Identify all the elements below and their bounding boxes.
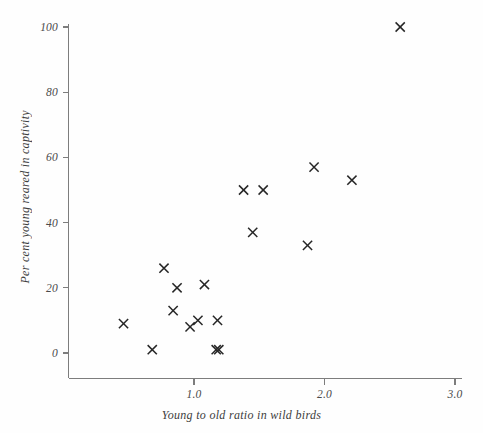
y-tick-label: 20 [10, 282, 58, 294]
data-point [172, 283, 181, 292]
data-point [159, 264, 168, 273]
plot-canvas [0, 0, 483, 433]
data-point [169, 306, 178, 315]
data-point-markers [119, 22, 405, 354]
data-point [119, 319, 128, 328]
x-axis-ticks [194, 379, 455, 385]
data-point [213, 316, 222, 325]
x-tick-label: 3.0 [448, 388, 463, 400]
data-point [185, 322, 194, 331]
x-tick-label: 1.0 [187, 388, 202, 400]
x-tick-label: 2.0 [317, 388, 332, 400]
data-point [309, 163, 318, 172]
y-tick-label: 80 [10, 86, 58, 98]
data-point [396, 22, 405, 31]
y-axis-title: Per cent young reared in captivity [18, 110, 36, 284]
y-tick-label: 0 [10, 347, 58, 359]
x-axis-title: Young to old ratio in wild birds [0, 408, 483, 423]
data-point [303, 241, 312, 250]
plot-area: 020406080100 1.02.03.0 [0, 0, 483, 433]
data-point [259, 185, 268, 194]
scatter-plot-figure: 020406080100 1.02.03.0 Per cent young re… [0, 0, 483, 433]
y-axis-ticks [63, 27, 69, 353]
data-point [193, 316, 202, 325]
y-tick-label: 100 [10, 21, 58, 33]
axes [69, 24, 463, 379]
data-point [347, 176, 356, 185]
data-point [148, 345, 157, 354]
data-point [239, 185, 248, 194]
data-point [200, 280, 209, 289]
data-point [248, 228, 257, 237]
